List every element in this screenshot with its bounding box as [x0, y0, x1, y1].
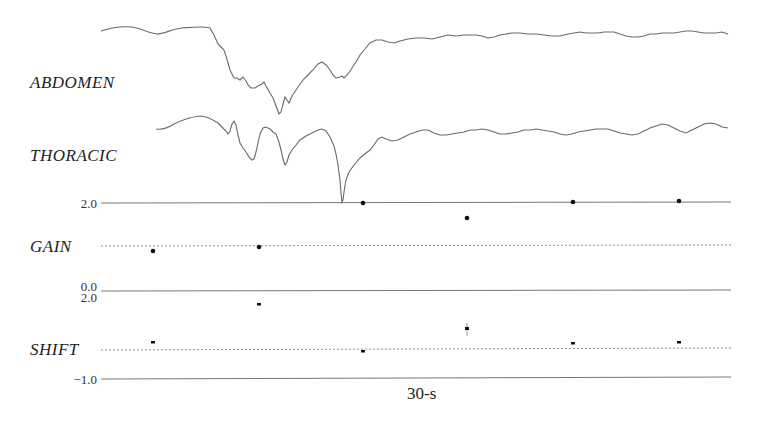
shift-point — [465, 327, 469, 330]
thoracic-waveform — [156, 116, 728, 202]
shift-bottom-tick: −1.0 — [57, 373, 97, 386]
shift-top-tick: 2.0 — [57, 291, 97, 304]
gain-point — [571, 200, 576, 205]
gain-top-axis — [101, 202, 731, 203]
gain-point — [257, 245, 262, 250]
gain-reference-line — [101, 245, 731, 246]
gain-point — [677, 199, 682, 204]
abdomen-label: ABDOMEN — [30, 73, 115, 93]
shift-bottom-axis — [101, 377, 731, 379]
abdomen-waveform — [101, 27, 728, 114]
shift-markers — [151, 303, 681, 353]
chart-canvas — [0, 0, 763, 425]
gain-label: GAIN — [30, 237, 72, 257]
shift-point — [677, 341, 681, 344]
shift-point — [571, 342, 575, 345]
shift-point — [151, 341, 155, 344]
x-axis-label: 30-s — [407, 384, 436, 404]
shift-point — [361, 350, 365, 353]
gain-top-tick: 2.0 — [57, 197, 97, 210]
gain-point — [361, 201, 366, 206]
shift-label: SHIFT — [30, 340, 79, 360]
gain-point — [151, 249, 156, 254]
gain-point — [465, 216, 470, 221]
thoracic-label: THORACIC — [30, 146, 117, 166]
shift-point — [257, 303, 261, 306]
shift-reference-line — [101, 348, 731, 350]
gain-bottom-axis — [101, 290, 731, 291]
